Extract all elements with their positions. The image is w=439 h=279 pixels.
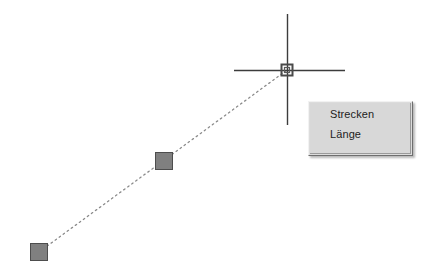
grip-shortcut-menu[interactable]: Strecken Länge [308,101,413,156]
cad-drawing-canvas[interactable]: Strecken Länge [0,0,439,279]
menu-item-strecken[interactable]: Strecken [330,108,374,120]
grip-midpoint[interactable] [156,153,173,170]
grip-endpoint-lower-left[interactable] [31,244,48,261]
grip-shortcut-menu-panel: Strecken Länge [310,103,411,154]
menu-item-laenge[interactable]: Länge [330,128,361,140]
